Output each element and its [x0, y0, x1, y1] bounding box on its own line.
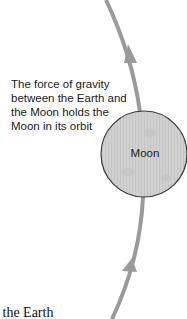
- caption-line: Moon in its orbit: [11, 119, 151, 133]
- moon-label: Moon: [118, 147, 172, 159]
- orbit-diagram: [0, 0, 187, 319]
- gravity-caption: The force of gravity between the Earth a…: [11, 77, 151, 133]
- caption-line: between the Earth and: [11, 91, 151, 105]
- orbit-path-lower: [112, 197, 143, 319]
- caption-line: the Moon holds the: [11, 105, 151, 119]
- moon-crater: [161, 175, 171, 181]
- bottom-cutoff-text: d the Earth: [0, 305, 53, 319]
- caption-line: The force of gravity: [11, 77, 151, 91]
- moon-crater: [121, 168, 135, 176]
